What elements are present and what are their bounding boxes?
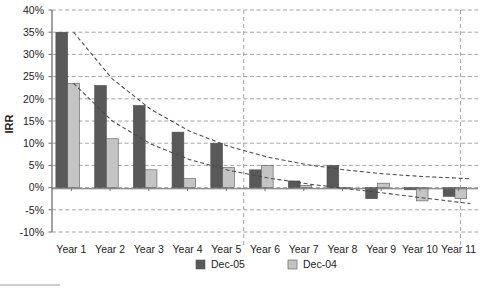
irr-bar-chart: 40%35%30%25%20%15%10%5%0%-5%-10% Year 1Y… <box>0 0 483 291</box>
x-tick-label: Year 6 <box>250 243 280 255</box>
y-tick-label: 25% <box>23 70 44 82</box>
bar-dec-04-year-6 <box>261 165 273 187</box>
y-tick-label: -10% <box>19 226 44 238</box>
legend-label-dec-04[interactable]: Dec-04 <box>303 258 337 270</box>
y-tick-label: 30% <box>23 48 44 60</box>
y-tick-label: 20% <box>23 93 44 105</box>
bar-dec-05-year-1 <box>56 32 68 187</box>
x-tick-label: Year 2 <box>95 243 125 255</box>
y-tick-label: 35% <box>23 26 44 38</box>
bar-dec-04-year-9 <box>378 183 390 187</box>
bar-dec-05-year-4 <box>172 132 184 188</box>
y-tick-label: 0% <box>29 181 44 193</box>
x-tick-label: Year 10 <box>402 243 438 255</box>
bar-dec-04-year-3 <box>145 170 157 188</box>
legend-label-dec-05[interactable]: Dec-05 <box>211 258 245 270</box>
legend-swatch-dec-05[interactable] <box>196 260 205 269</box>
x-tick-label: Year 9 <box>366 243 396 255</box>
bar-dec-05-year-5 <box>211 143 223 187</box>
bar-dec-04-year-4 <box>184 179 196 188</box>
x-tick-label: Year 3 <box>134 243 164 255</box>
bar-dec-05-year-6 <box>250 170 262 188</box>
bar-dec-05-year-3 <box>133 105 145 187</box>
bar-dec-04-year-1 <box>68 83 80 187</box>
x-tick-label: Year 7 <box>289 243 319 255</box>
y-axis-label: IRR <box>3 114 15 133</box>
y-tick-label: 40% <box>23 4 44 16</box>
y-tick-label: -5% <box>25 204 44 216</box>
bar-dec-04-year-2 <box>106 139 118 188</box>
x-tick-label: Year 1 <box>56 243 86 255</box>
x-tick-label: Year 4 <box>173 243 203 255</box>
legend-swatch-dec-04[interactable] <box>288 260 297 269</box>
bar-dec-05-year-2 <box>95 85 107 187</box>
x-tick-label: Year 5 <box>211 243 241 255</box>
y-tick-label: 5% <box>29 159 44 171</box>
bar-dec-04-year-7 <box>300 185 312 187</box>
x-tick-label: Year 11 <box>441 243 476 255</box>
x-tick-label: Year 8 <box>327 243 357 255</box>
bar-dec-04-year-10 <box>416 188 428 201</box>
y-tick-label: 15% <box>23 115 44 127</box>
y-tick-label: 10% <box>23 137 44 149</box>
chart-container: 40%35%30%25%20%15%10%5%0%-5%-10% Year 1Y… <box>0 0 483 291</box>
